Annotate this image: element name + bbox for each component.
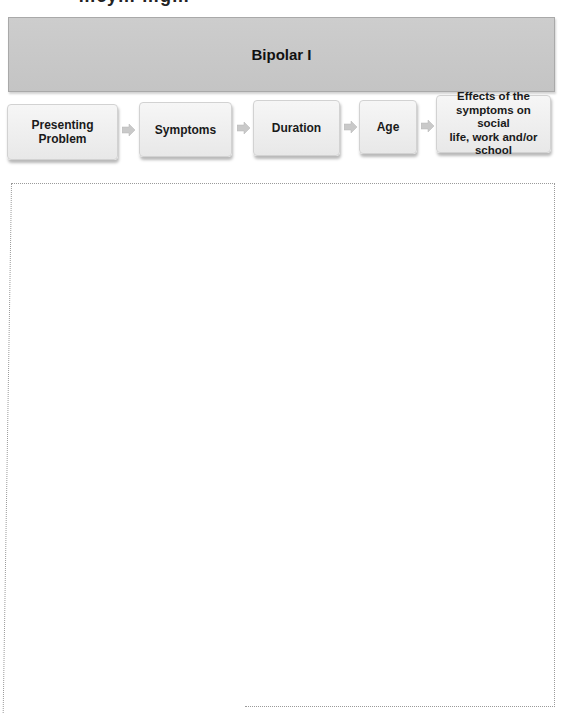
flow-step-label: symptoms on social	[441, 104, 546, 131]
flow-step-effects: Effects of the symptoms on social life, …	[436, 95, 551, 153]
flow-step-age: Age	[359, 100, 417, 154]
flow-step-label: Effects of the	[441, 90, 546, 104]
flow-step-label: Symptoms	[155, 123, 216, 137]
right-arrow-icon	[122, 124, 135, 136]
flow-step-label: Presenting	[31, 118, 93, 132]
right-arrow-icon	[344, 121, 357, 133]
right-arrow-icon	[421, 120, 434, 132]
answer-area-bottom-border	[245, 706, 555, 707]
flow-step-label: Duration	[272, 121, 321, 135]
flow-step-label: life, work and/or	[441, 131, 546, 145]
title-banner: Bipolar I	[8, 17, 555, 92]
flow-step-duration: Duration	[253, 100, 340, 156]
flow-step-presenting-problem: Presenting Problem	[7, 104, 118, 160]
flow-step-symptoms: Symptoms	[139, 102, 232, 157]
page-title: Bipolar I	[251, 46, 311, 63]
answer-area[interactable]	[11, 183, 555, 707]
flow-step-label: Age	[377, 120, 400, 134]
flow-step-label: Problem	[31, 132, 93, 146]
flow-step-label: school	[441, 144, 546, 158]
right-arrow-icon	[237, 122, 250, 134]
cut-off-heading: …cy… …g…	[78, 0, 190, 7]
